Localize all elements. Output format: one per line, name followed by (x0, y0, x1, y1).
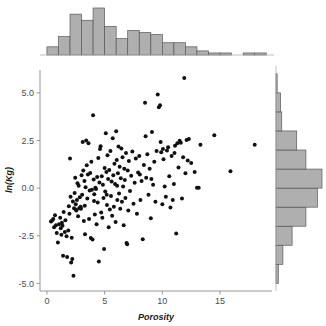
scatter-point (95, 222, 99, 226)
scatter-point (123, 178, 127, 182)
top-hist-bar (47, 47, 59, 55)
right-hist-bar (276, 93, 281, 112)
scatter-point (92, 199, 96, 203)
scatter-point (144, 134, 148, 138)
top-hist-bar (151, 35, 163, 55)
scatter-point (115, 184, 119, 188)
scatter-point (164, 195, 168, 199)
top-hist-bar (105, 26, 117, 55)
top-marginal-histogram (40, 8, 274, 55)
scatter-point (55, 231, 59, 235)
scatter-point (168, 206, 172, 210)
scatter-point (148, 167, 152, 171)
scatter-point (73, 176, 77, 180)
scatter-point (198, 143, 202, 147)
scatter-point (129, 174, 133, 178)
scatter-point (99, 211, 103, 215)
scatter-point (174, 231, 178, 235)
x-tick-label: 5 (102, 296, 107, 306)
scatter-point (83, 204, 87, 208)
scatter-point (104, 131, 108, 135)
scatter-point (161, 147, 165, 151)
scatter-point (62, 210, 66, 214)
scatter-point (80, 193, 84, 197)
scatter-point (135, 212, 139, 216)
scatter-point (60, 221, 64, 225)
top-hist-bar (139, 33, 151, 55)
scatter-point (82, 219, 86, 223)
scatter-point (122, 167, 126, 171)
top-hist-bar (162, 43, 174, 55)
scatter-point (149, 216, 153, 220)
scatter-point (109, 194, 113, 198)
y-axis-title: ln(Kg) (4, 167, 14, 193)
scatter-point (63, 218, 67, 222)
scatter-point (121, 185, 125, 189)
scatter-point (91, 113, 95, 117)
y-tick-label: -5.0 (18, 279, 34, 289)
scatter-point (65, 234, 69, 238)
scatter-point (100, 174, 104, 178)
scatter-point (197, 186, 201, 190)
scatter-point (59, 233, 63, 237)
scatter-point (71, 199, 75, 203)
top-hist-bar (70, 14, 82, 55)
right-hist-bar (276, 150, 306, 169)
x-tick-label: 0 (44, 296, 49, 306)
scatter-point (82, 179, 86, 183)
scatter-point (81, 169, 85, 173)
scatter-point (158, 103, 162, 107)
right-hist-bar (276, 207, 306, 226)
scatter-point (163, 185, 167, 189)
scatter-point (137, 154, 141, 158)
scatter-point (102, 247, 106, 251)
scatter-point (77, 184, 81, 188)
right-marginal-histogram (276, 66, 322, 291)
scatter-point (138, 172, 142, 176)
scatter-point (69, 260, 73, 264)
scatter-point (125, 242, 129, 246)
scatter-point (147, 193, 151, 197)
scatter-point (118, 207, 122, 211)
scatter-point (140, 179, 144, 183)
scatter-point (150, 130, 154, 134)
scatter-point (101, 196, 105, 200)
scatter-point (76, 214, 80, 218)
scatter-point (51, 217, 55, 221)
scatter-point (186, 159, 190, 163)
y-tick-label: 0.0 (21, 183, 34, 193)
scatter-point (141, 237, 145, 241)
scatter-point (100, 216, 104, 220)
x-tick-label: 10 (157, 296, 167, 306)
right-hist-bar (276, 226, 292, 245)
top-hist-bar (197, 51, 209, 55)
scatter-point (81, 140, 85, 144)
scatter-point (131, 202, 135, 206)
scatter-point (63, 230, 67, 234)
scatter-points-layer (49, 76, 257, 278)
scatter-point (114, 220, 118, 224)
scatter-point (108, 149, 112, 153)
scatter-point (91, 238, 95, 242)
scatter-point (65, 255, 69, 259)
scatter-point (70, 257, 74, 261)
top-hist-bar (58, 37, 70, 55)
right-hist-bar (276, 188, 317, 207)
scatter-point (99, 144, 103, 148)
scatter-point (212, 133, 216, 137)
scatter-point (70, 236, 74, 240)
top-hist-bar (174, 43, 186, 55)
scatter-point (128, 189, 132, 193)
top-hist-bar (116, 39, 128, 55)
scatter-point (103, 166, 107, 170)
scatter-point (166, 145, 170, 149)
x-tick-label: 15 (215, 296, 225, 306)
scatter-point (74, 202, 78, 206)
x-axis-title: Porosity (138, 312, 175, 322)
scatter-point (156, 92, 160, 96)
scatter-point (133, 181, 137, 185)
scatter-point (167, 174, 171, 178)
scatter-point (93, 212, 97, 216)
scatter-point (74, 207, 78, 211)
scatter-point (123, 196, 127, 200)
